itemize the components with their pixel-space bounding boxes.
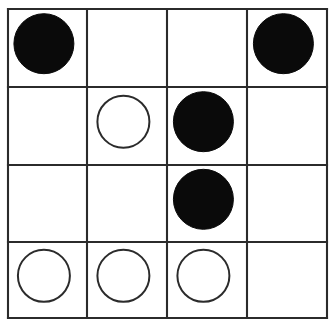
board-cell-r3-c3[interactable] (247, 242, 327, 318)
board-cell-r2-c1[interactable] (87, 165, 167, 242)
black-stone-r0-c0[interactable] (14, 14, 74, 74)
board-cell-r0-c0[interactable] (8, 9, 87, 87)
board-cell-r2-c2[interactable] (167, 165, 247, 242)
board-cell-r0-c3[interactable] (247, 9, 327, 87)
board-cells (8, 9, 327, 318)
board-cell-r3-c0[interactable] (8, 242, 87, 318)
cell-hit-area-r1-c3[interactable] (247, 87, 327, 165)
white-stone-r3-c1[interactable] (97, 250, 149, 302)
cell-hit-area-r3-c3[interactable] (247, 242, 327, 318)
board-cell-r1-c1[interactable] (87, 87, 167, 165)
board-cell-r1-c2[interactable] (167, 87, 247, 165)
cell-hit-area-r2-c0[interactable] (8, 165, 87, 242)
black-stone-r0-c3[interactable] (253, 14, 313, 74)
cell-hit-area-r0-c1[interactable] (87, 9, 167, 87)
cell-hit-area-r1-c0[interactable] (8, 87, 87, 165)
board-cell-r0-c2[interactable] (167, 9, 247, 87)
grid-board (0, 0, 335, 325)
white-stone-r1-c1[interactable] (97, 96, 149, 148)
board-cell-r1-c3[interactable] (247, 87, 327, 165)
board-cell-r3-c1[interactable] (87, 242, 167, 318)
board-cell-r3-c2[interactable] (167, 242, 247, 318)
black-stone-r1-c2[interactable] (173, 92, 233, 152)
board-cell-r2-c3[interactable] (247, 165, 327, 242)
cell-hit-area-r0-c2[interactable] (167, 9, 247, 87)
cell-hit-area-r2-c3[interactable] (247, 165, 327, 242)
white-stone-r3-c2[interactable] (177, 250, 229, 302)
cell-hit-area-r2-c1[interactable] (87, 165, 167, 242)
white-stone-r3-c0[interactable] (18, 250, 70, 302)
board-cell-r1-c0[interactable] (8, 87, 87, 165)
black-stone-r2-c2[interactable] (173, 169, 233, 229)
board-cell-r2-c0[interactable] (8, 165, 87, 242)
board-cell-r0-c1[interactable] (87, 9, 167, 87)
